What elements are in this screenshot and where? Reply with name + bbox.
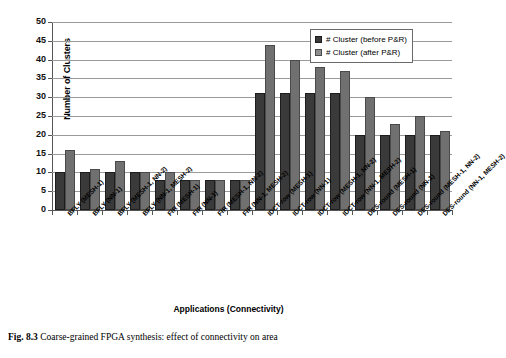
y-axis-tick-label: 30 xyxy=(22,92,46,101)
legend-swatch-after-icon xyxy=(315,49,322,56)
y-axis-tick-label: 40 xyxy=(22,55,46,64)
bar-chart: Number of Clusters 50454035302520151050 … xyxy=(0,0,457,318)
legend-label-before: # Cluster (before P&R) xyxy=(326,35,407,44)
y-axis-tick-label: 50 xyxy=(22,17,46,26)
bar-group xyxy=(105,22,125,210)
legend-swatch-before-icon xyxy=(315,36,322,43)
bar-after-pr xyxy=(440,131,450,210)
figure-caption-text: Coarse-grained FPGA synthesis: effect of… xyxy=(40,332,278,342)
x-axis-labels: BFLY (MESH-1)BFLY (NN-1)BFLY (MESH-1, NN… xyxy=(52,212,457,302)
figure-caption: Fig. 8.3 Coarse-grained FPGA synthesis: … xyxy=(8,332,453,342)
bar-group xyxy=(55,22,75,210)
figure-number: Fig. 8.3 xyxy=(8,332,38,342)
y-axis-tick-label: 20 xyxy=(22,130,46,139)
y-axis-tick-label: 5 xyxy=(22,186,46,195)
bar-after-pr xyxy=(65,150,75,210)
y-axis-tick-label: 15 xyxy=(22,149,46,158)
x-axis-title: Applications (Connectivity) xyxy=(0,304,457,314)
legend-label-after: # Cluster (after P&R) xyxy=(326,48,400,57)
y-axis-tick-label: 35 xyxy=(22,73,46,82)
chart-legend: # Cluster (before P&R) # Cluster (after … xyxy=(310,29,413,63)
bar-group xyxy=(205,22,225,210)
y-axis-tick-label: 10 xyxy=(22,167,46,176)
y-axis-tick-label: 0 xyxy=(22,205,46,214)
y-axis-tick-label: 25 xyxy=(22,111,46,120)
bar-before-pr xyxy=(55,172,65,210)
legend-item-after: # Cluster (after P&R) xyxy=(315,46,407,59)
y-axis-tick-label: 45 xyxy=(22,36,46,45)
legend-item-before: # Cluster (before P&R) xyxy=(315,33,407,46)
bar-group xyxy=(180,22,200,210)
